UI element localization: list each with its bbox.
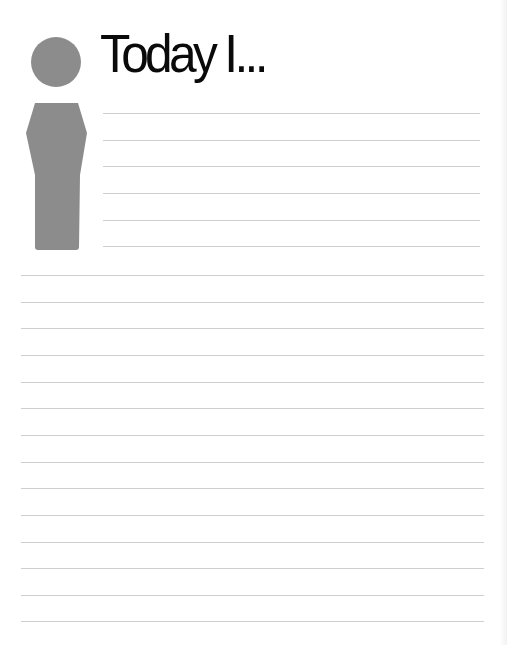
writing-line: [21, 595, 484, 596]
writing-line: [103, 193, 480, 194]
writing-line: [103, 113, 480, 114]
writing-line: [21, 382, 484, 383]
writing-line: [21, 435, 484, 436]
writing-line: [103, 220, 480, 221]
writing-line: [21, 542, 484, 543]
icon-head: [31, 37, 81, 87]
writing-line: [21, 328, 484, 329]
page-edge-shadow: [500, 0, 507, 645]
writing-line: [103, 140, 480, 141]
writing-line: [21, 488, 484, 489]
writing-line: [103, 166, 480, 167]
writing-line: [103, 246, 480, 247]
writing-line: [21, 408, 484, 409]
writing-line: [21, 568, 484, 569]
writing-line: [21, 515, 484, 516]
icon-body: [25, 103, 88, 251]
page-title: Today I...: [100, 26, 265, 80]
writing-line: [21, 462, 484, 463]
writing-line: [21, 275, 484, 276]
writing-line: [21, 621, 484, 622]
writing-line: [21, 302, 484, 303]
writing-line: [21, 355, 484, 356]
